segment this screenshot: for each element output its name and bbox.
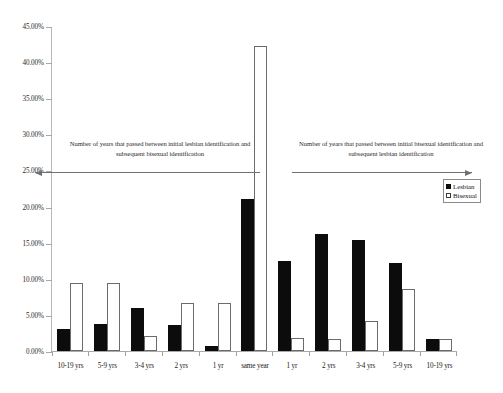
annotation-left-text: Number of years that passed between init… (62, 139, 258, 158)
x-axis-tick-mark (52, 352, 89, 356)
bar-bisexual (439, 339, 452, 351)
x-axis-tick-mark (199, 352, 236, 356)
x-axis-tick-mark (162, 352, 199, 356)
y-axis-tick-label: 0.00% (26, 348, 44, 356)
x-axis-ticks (52, 352, 457, 356)
legend-item-bisexual: Bisexual (446, 191, 477, 200)
bar-series-container (52, 27, 457, 351)
bar-lesbian (315, 234, 328, 351)
x-axis-label: same year (237, 362, 274, 370)
legend-label-lesbian: Lesbian (453, 182, 475, 191)
bar-bisexual (328, 339, 341, 351)
x-axis-tick-mark (310, 352, 347, 356)
legend-label-bisexual: Bisexual (453, 191, 477, 200)
x-axis-label: 2 yrs (163, 362, 200, 370)
bar-bisexual (291, 338, 304, 351)
y-axis-tick-label: 40.00% (22, 59, 44, 67)
y-axis-tick-label: 15.00% (22, 240, 44, 248)
legend-swatch-bisexual-icon (446, 193, 451, 198)
legend-swatch-lesbian-icon (446, 184, 451, 189)
legend: Lesbian Bisexual (443, 179, 481, 203)
bar-group (126, 27, 163, 351)
x-axis-tick-mark (420, 352, 457, 356)
bar-chart: 0.00%5.00%10.00%15.00%20.00%25.00%30.00%… (0, 0, 503, 393)
annotation-left-arrow-icon (35, 172, 260, 173)
x-axis-labels: 10-19 yrs5-9 yrs3-4 yrs2 yrs1 yrsame yea… (52, 362, 458, 370)
x-axis-tick-mark (126, 352, 163, 356)
x-axis-label: 3-4 yrs (347, 362, 384, 370)
x-axis-tick-mark (273, 352, 310, 356)
bar-lesbian (278, 261, 291, 351)
x-axis-label: 5-9 yrs (89, 362, 126, 370)
bar-lesbian (205, 346, 218, 351)
x-axis-label: 3-4 yrs (126, 362, 163, 370)
x-axis-label: 10-19 yrs (421, 362, 458, 370)
bar-bisexual (107, 283, 120, 351)
bar-group (52, 27, 89, 351)
bar-group (162, 27, 199, 351)
bar-bisexual (181, 303, 194, 351)
y-axis-tick-label: 20.00% (22, 204, 44, 212)
bar-lesbian (57, 329, 70, 351)
bar-bisexual (254, 46, 267, 352)
bar-group (89, 27, 126, 351)
bar-lesbian (389, 263, 402, 351)
bar-lesbian (241, 199, 254, 351)
x-axis-tick-mark (89, 352, 126, 356)
bar-group (199, 27, 236, 351)
bar-bisexual (402, 289, 415, 351)
bar-group (236, 27, 273, 351)
x-axis-tick-mark (236, 352, 273, 356)
bar-lesbian (352, 240, 365, 351)
y-axis-tick-label: 30.00% (22, 131, 44, 139)
bar-bisexual (218, 303, 231, 351)
x-axis-tick-mark (347, 352, 384, 356)
bar-lesbian (131, 308, 144, 351)
legend-item-lesbian: Lesbian (446, 182, 477, 191)
annotation-right-arrow-icon (292, 172, 472, 173)
y-axis-tick-label: 45.00% (22, 23, 44, 31)
x-axis-label: 10-19 yrs (52, 362, 89, 370)
y-axis-tick-label: 35.00% (22, 95, 44, 103)
x-axis-label: 5-9 yrs (384, 362, 421, 370)
annotation-right-text: Number of years that passed between init… (298, 139, 484, 158)
x-axis-tick-mark (383, 352, 420, 356)
bar-lesbian (94, 324, 107, 351)
bar-group (310, 27, 347, 351)
bar-lesbian (426, 339, 439, 351)
bar-bisexual (144, 336, 157, 351)
plot-area: 0.00%5.00%10.00%15.00%20.00%25.00%30.00%… (51, 27, 457, 352)
bar-bisexual (70, 283, 83, 351)
bar-bisexual (365, 321, 378, 351)
bar-lesbian (168, 325, 181, 351)
bar-group (273, 27, 310, 351)
y-axis-tick-label: 5.00% (26, 312, 44, 320)
bar-group (347, 27, 384, 351)
x-axis-label: 2 yrs (310, 362, 347, 370)
x-axis-label: 1 yr (200, 362, 237, 370)
x-axis-label: 1 yr (273, 362, 310, 370)
y-axis-tick-label: 10.00% (22, 276, 44, 284)
bar-group (383, 27, 420, 351)
